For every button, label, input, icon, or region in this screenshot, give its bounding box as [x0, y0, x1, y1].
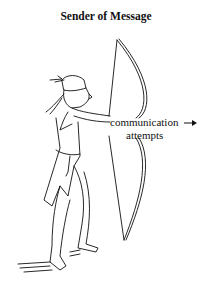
archer-illustration — [0, 0, 212, 286]
diagram-canvas: Sender of Message — [0, 0, 212, 286]
right-arrow-icon — [184, 120, 197, 126]
label-communication: communication — [110, 116, 178, 128]
label-attempts: attempts — [126, 129, 163, 141]
